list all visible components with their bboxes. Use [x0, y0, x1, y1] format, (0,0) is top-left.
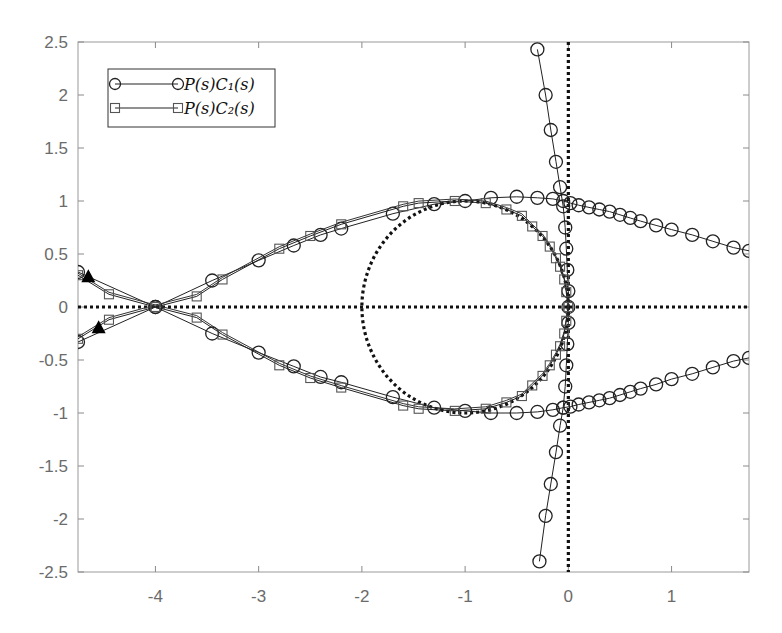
y-tick-label: -0.5 [39, 351, 68, 370]
y-tick-label: 2 [59, 86, 68, 105]
y-tick-label: 1 [59, 192, 68, 211]
y-tick-label: -1 [53, 404, 68, 423]
y-axis-tick-labels: 2.521.510.50-0.5-1-1.5-2-2.5 [39, 33, 68, 582]
y-tick-label: 2.5 [44, 33, 68, 52]
y-tick-label: 0 [59, 298, 68, 317]
x-tick-label: 0 [564, 587, 573, 606]
y-tick-label: -2.5 [39, 563, 68, 582]
legend-label-c1: P(s)C₁(s) [183, 75, 255, 94]
legend-label-c2: P(s)C₂(s) [183, 99, 255, 118]
nyquist-plot: -4-3-2-101 2.521.510.50-0.5-1-1.5-2-2.5 … [0, 0, 782, 633]
y-tick-label: 1.5 [44, 139, 68, 158]
x-tick-label: -3 [251, 587, 266, 606]
x-axis-tick-labels: -4-3-2-101 [148, 587, 676, 606]
y-tick-label: -1.5 [39, 457, 68, 476]
y-tick-label: -2 [53, 510, 68, 529]
x-tick-label: -1 [458, 587, 473, 606]
x-tick-label: -2 [354, 587, 369, 606]
y-tick-label: 0.5 [44, 245, 68, 264]
x-tick-label: -4 [148, 587, 163, 606]
legend: P(s)C₁(s) P(s)C₂(s) [108, 69, 275, 127]
x-tick-label: 1 [667, 587, 676, 606]
